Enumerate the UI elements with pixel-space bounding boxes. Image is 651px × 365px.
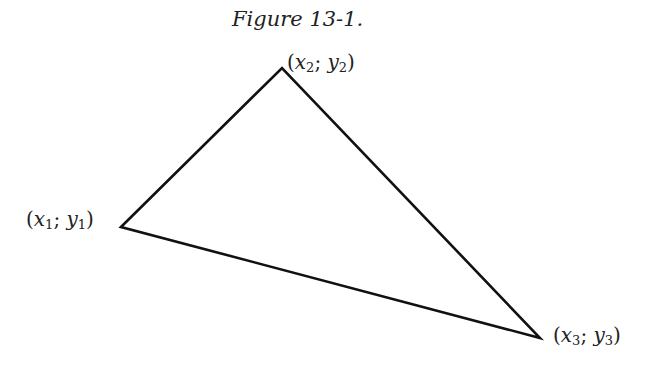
vertex-label-2: (x2; y2) [287, 50, 355, 75]
vertex-label-3: (x3; y3) [553, 323, 621, 348]
triangle [121, 68, 540, 338]
vertex-label-1: (x1; y1) [26, 207, 94, 232]
